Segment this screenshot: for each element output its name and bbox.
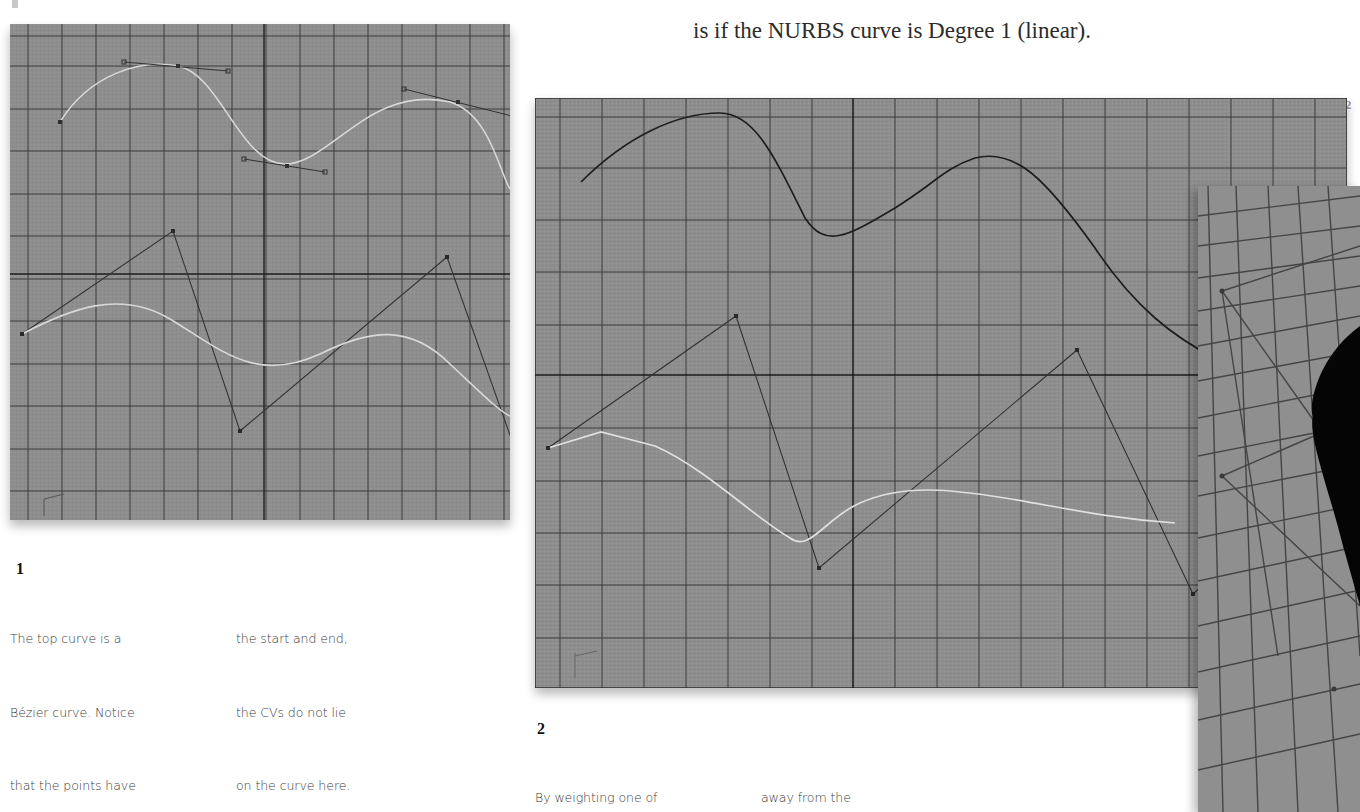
figure-1-viewport xyxy=(10,24,510,520)
figure-3-perspective-viewport xyxy=(1198,186,1360,812)
caption-1-column-2: the start and end, the CVs do not lie on… xyxy=(236,578,375,812)
page-corner-mark xyxy=(12,0,18,8)
caption-1-column-1: The top curve is a Bézier curve. Notice … xyxy=(10,578,144,812)
caption-line: By weighting one of xyxy=(535,786,666,811)
caption-2-number: 2 xyxy=(537,720,545,738)
caption-line: away from the xyxy=(761,786,898,811)
caption-line: The top curve is a xyxy=(10,627,144,652)
caption-line: Bézier curve. Notice xyxy=(10,701,144,726)
heading-text-fragment: is if the NURBS curve is Degree 1 (linea… xyxy=(693,18,1091,44)
caption-line: the start and end, xyxy=(236,627,375,652)
caption-2-column-2: away from the outlying CVs. This can be … xyxy=(761,737,898,812)
caption-line: that the points have xyxy=(10,774,144,799)
caption-line: the CVs do not lie xyxy=(236,701,375,726)
caption-line: on the curve here. xyxy=(236,774,375,799)
caption-2-column-1: By weighting one of the CVs you increase… xyxy=(535,737,666,812)
caption-1-number: 1 xyxy=(16,560,24,578)
